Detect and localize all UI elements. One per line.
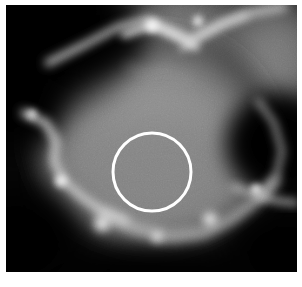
micrograph-frame[interactable] [6, 5, 297, 272]
figure-root: Grayscale micrograph of a cell-like regi… [0, 0, 302, 287]
micrograph-image[interactable] [6, 5, 297, 272]
image-noise-layer [6, 5, 297, 272]
